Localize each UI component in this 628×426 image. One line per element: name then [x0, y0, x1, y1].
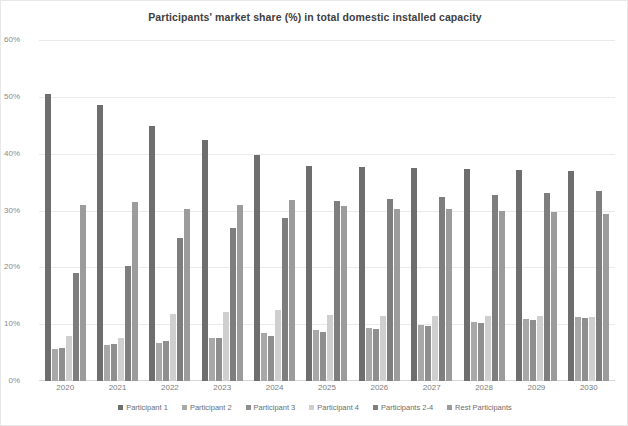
bar[interactable]: [334, 201, 340, 381]
bar[interactable]: [177, 238, 183, 381]
bar[interactable]: [73, 273, 79, 381]
bar[interactable]: [261, 333, 267, 381]
legend-item[interactable]: Participant 2: [182, 403, 232, 412]
bar[interactable]: [80, 205, 86, 381]
bar[interactable]: [202, 140, 208, 381]
bar[interactable]: [485, 316, 491, 381]
bar[interactable]: [499, 211, 505, 382]
bar[interactable]: [282, 218, 288, 381]
bar[interactable]: [366, 328, 372, 381]
bar[interactable]: [523, 319, 529, 381]
bar[interactable]: [275, 310, 281, 381]
legend-label: Participant 1: [126, 403, 168, 412]
bar[interactable]: [603, 214, 609, 381]
x-axis-tick-label: 2024: [248, 383, 300, 392]
bar[interactable]: [478, 323, 484, 381]
legend-swatch-icon: [309, 405, 314, 410]
bar[interactable]: [163, 341, 169, 381]
bar[interactable]: [132, 202, 138, 381]
bar[interactable]: [327, 315, 333, 381]
x-axis-tick-label: 2026: [353, 383, 405, 392]
bar[interactable]: [66, 336, 72, 381]
bar[interactable]: [237, 205, 243, 381]
x-axis-tick-label: 2021: [91, 383, 143, 392]
x-axis-tick-label: 2027: [406, 383, 458, 392]
bar[interactable]: [516, 170, 522, 381]
legend-item[interactable]: Participant 3: [246, 403, 296, 412]
bar[interactable]: [306, 166, 312, 381]
bar[interactable]: [104, 345, 110, 381]
bar[interactable]: [446, 209, 452, 381]
bar-groups: [39, 40, 615, 381]
legend-item[interactable]: Participants 2-4: [373, 403, 433, 412]
legend-label: Participant 3: [254, 403, 296, 412]
bar[interactable]: [432, 316, 438, 381]
bar[interactable]: [289, 200, 295, 381]
bar[interactable]: [380, 316, 386, 381]
bar[interactable]: [45, 94, 51, 381]
legend-item[interactable]: Participant 4: [309, 403, 359, 412]
bar[interactable]: [411, 168, 417, 381]
bar[interactable]: [156, 343, 162, 381]
bar-group-2027: [406, 40, 458, 381]
bar[interactable]: [254, 155, 260, 381]
bar[interactable]: [97, 105, 103, 381]
y-axis-tick-label: 0%: [0, 376, 20, 385]
bar[interactable]: [184, 209, 190, 381]
x-axis-tick-label: 2030: [563, 383, 615, 392]
bar[interactable]: [313, 330, 319, 381]
bar[interactable]: [118, 338, 124, 381]
legend-item[interactable]: Rest Participants: [447, 403, 512, 412]
chart-title: Participants' market share (%) in total …: [1, 11, 628, 23]
bar[interactable]: [589, 317, 595, 381]
bar[interactable]: [471, 322, 477, 381]
bar[interactable]: [387, 199, 393, 381]
bar[interactable]: [341, 206, 347, 381]
bar[interactable]: [373, 329, 379, 381]
bar-group-2029: [510, 40, 562, 381]
bar[interactable]: [544, 193, 550, 381]
x-axis-tick-label: 2020: [39, 383, 91, 392]
chart-legend: Participant 1Participant 2Participant 3P…: [1, 403, 628, 412]
bar-group-2024: [248, 40, 300, 381]
y-axis-tick-label: 50%: [0, 92, 20, 101]
legend-swatch-icon: [373, 405, 378, 410]
bar[interactable]: [268, 336, 274, 381]
bar[interactable]: [111, 344, 117, 382]
bar[interactable]: [530, 320, 536, 381]
bar-group-2023: [196, 40, 248, 381]
bar[interactable]: [464, 169, 470, 381]
bar[interactable]: [359, 167, 365, 381]
bar[interactable]: [418, 325, 424, 381]
bar[interactable]: [551, 212, 557, 381]
bar[interactable]: [537, 316, 543, 381]
bar[interactable]: [223, 312, 229, 381]
x-axis-tick-label: 2025: [301, 383, 353, 392]
bar[interactable]: [425, 326, 431, 381]
bar[interactable]: [394, 209, 400, 381]
bar[interactable]: [492, 195, 498, 381]
legend-item[interactable]: Participant 1: [118, 403, 168, 412]
legend-swatch-icon: [182, 405, 187, 410]
bar-group-2030: [563, 40, 615, 381]
bar[interactable]: [320, 332, 326, 381]
bar[interactable]: [59, 348, 65, 381]
legend-swatch-icon: [447, 405, 452, 410]
bar[interactable]: [216, 338, 222, 381]
bar[interactable]: [209, 338, 215, 381]
bar[interactable]: [439, 197, 445, 381]
y-axis-tick-label: 60%: [0, 35, 20, 44]
bar[interactable]: [52, 349, 58, 381]
bar[interactable]: [568, 171, 574, 381]
x-axis-labels: 2020202120222023202420252026202720282029…: [39, 383, 615, 392]
bar[interactable]: [582, 318, 588, 381]
bar[interactable]: [230, 228, 236, 381]
bar[interactable]: [575, 317, 581, 381]
y-axis-tick-label: 30%: [0, 206, 20, 215]
y-axis-tick-label: 20%: [0, 262, 20, 271]
bar[interactable]: [170, 314, 176, 381]
bar[interactable]: [596, 191, 602, 381]
y-axis-tick-label: 10%: [0, 319, 20, 328]
bar[interactable]: [149, 126, 155, 381]
bar[interactable]: [125, 266, 131, 381]
